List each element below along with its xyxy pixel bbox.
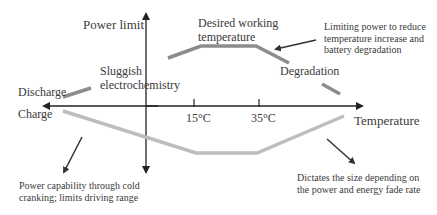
discharge-curve-hot <box>322 84 340 94</box>
arrow-cold-cranking <box>64 137 82 172</box>
discharge-curve-main <box>168 46 289 63</box>
arrow-limiting-power <box>276 40 316 49</box>
power-limit-label: Power limit <box>83 18 144 33</box>
size-line2: the power and energy fade rate <box>297 184 420 196</box>
temperature-label: Temperature <box>354 114 420 129</box>
limiting-line1: Limiting power to reduce <box>324 21 426 33</box>
cold-line1: Power capability through cold <box>19 180 140 192</box>
sluggish-label: Sluggish electrochemistry <box>100 65 210 93</box>
arrow-size-fade <box>327 139 354 163</box>
size-line1: Dictates the size depending on <box>297 172 420 184</box>
desired-line2: temperature <box>198 31 278 45</box>
charge-label: Charge <box>18 108 52 122</box>
cold-line2: cranking; limits driving range <box>19 192 140 204</box>
limiting-line2: temperature increase and <box>324 33 426 45</box>
sluggish-line1: Sluggish electrochemistry <box>100 65 210 93</box>
size-fade-annotation: Dictates the size depending on the power… <box>297 172 420 195</box>
desired-line1: Desired working <box>198 17 278 31</box>
desired-temp-label: Desired working temperature <box>198 17 278 45</box>
degradation-label: Degradation <box>280 65 339 79</box>
discharge-curve-cold <box>63 88 91 97</box>
limiting-line3: battery degradation <box>324 44 426 56</box>
tick-label-15c: 15°C <box>186 112 211 126</box>
tick-label-35c: 35°C <box>251 112 276 126</box>
limiting-power-annotation: Limiting power to reduce temperature inc… <box>324 21 426 56</box>
cold-cranking-annotation: Power capability through cold cranking; … <box>19 180 140 203</box>
discharge-label: Discharge <box>18 86 66 100</box>
